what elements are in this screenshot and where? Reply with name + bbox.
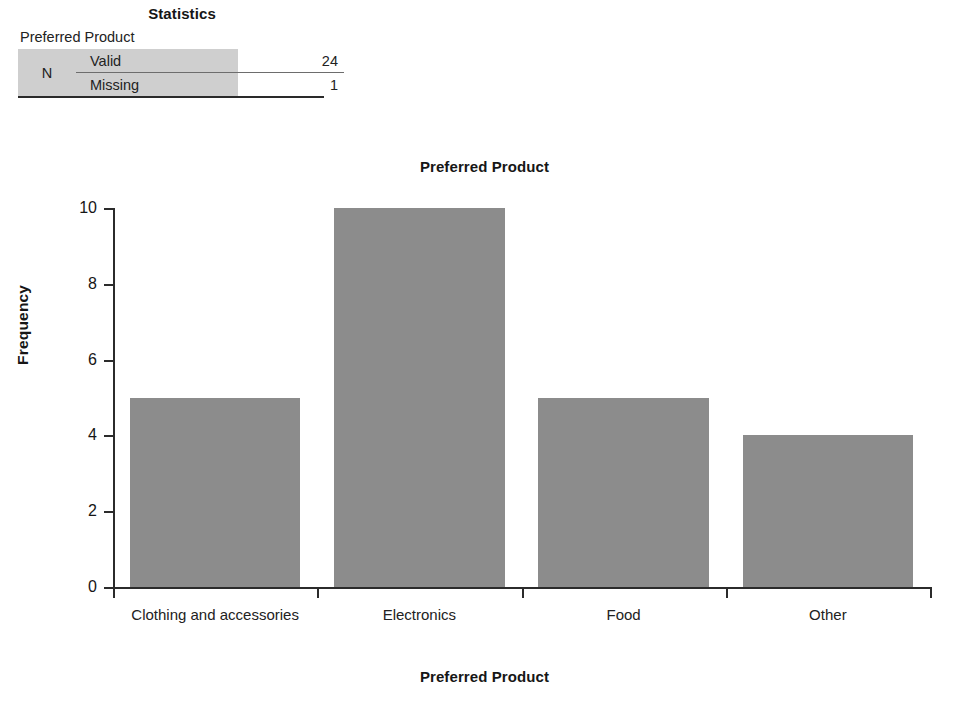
statistics-table-block: Statistics Preferred Product N Valid 24 … [18,4,328,98]
bar-3 [538,398,709,588]
x-axis-category-label: Other [726,605,930,625]
chart-title: Preferred Product [0,158,969,175]
table-bottom-rule [18,96,324,98]
x-axis-category-label: Clothing and accessories [113,605,317,625]
statistics-table-title: Statistics [18,4,328,24]
y-axis-tick: 2 [104,511,113,513]
y-axis-tick-label: 10 [79,199,97,217]
x-axis-tick [726,587,728,598]
plot-area: 0246810 [113,208,930,587]
table-row: N Valid 24 [18,49,344,73]
x-axis-tick [930,587,932,598]
x-axis-tick [317,587,319,598]
y-axis-tick-label: 2 [88,502,97,520]
bar-4 [743,435,914,587]
statistics-table: N Valid 24 Missing 1 [18,49,344,96]
x-axis-category-label: Food [522,605,726,625]
bar-2 [334,208,505,587]
x-axis-tick [113,587,115,598]
y-axis-tick: 4 [104,435,113,437]
x-axis-tick [522,587,524,598]
statistics-table-subtitle: Preferred Product [18,27,328,47]
table-cell-group-label: N [18,49,76,96]
y-axis-tick-label: 8 [88,275,97,293]
table-cell-value-valid: 24 [238,49,344,73]
table-cell-value-missing: 1 [238,73,344,97]
y-axis-tick: 0 [104,587,113,589]
y-axis-tick-label: 6 [88,351,97,369]
y-axis-tick: 6 [104,360,113,362]
x-axis-title: Preferred Product [0,668,969,685]
table-cell-label-valid: Valid [76,49,238,73]
y-axis-title: Frequency [14,285,32,365]
y-axis-tick: 10 [104,208,113,210]
y-axis-tick-label: 0 [88,578,97,596]
bar-chart: Preferred Product Frequency 0246810 Pref… [0,150,969,710]
y-axis-tick-label: 4 [88,426,97,444]
y-axis-tick: 8 [104,284,113,286]
table-cell-label-missing: Missing [76,73,238,97]
bar-1 [130,398,301,588]
x-axis-category-label: Electronics [317,605,521,625]
